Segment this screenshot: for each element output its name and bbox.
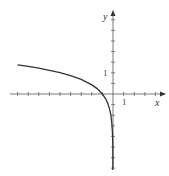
axes: [10, 10, 166, 168]
y-tick-label-1: 1: [103, 68, 108, 78]
curve-ln-neg-x: [18, 65, 113, 170]
x-axis-label: x: [154, 97, 160, 108]
y-axis-label: y: [102, 11, 108, 22]
x-tick-label-1: 1: [122, 97, 127, 107]
graph: y x 1 1: [0, 0, 169, 176]
